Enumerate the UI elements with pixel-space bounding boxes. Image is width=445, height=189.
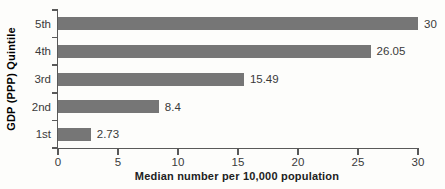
x-axis-tick (237, 148, 239, 155)
bar-value-label: 26.05 (377, 43, 406, 59)
category-label: 4th (1, 43, 51, 59)
y-axis-tick (52, 9, 59, 11)
x-axis-tick (357, 148, 359, 155)
category-label: 5th (1, 16, 51, 32)
bar-value-label: 15.49 (250, 71, 279, 87)
bar (58, 128, 91, 141)
y-axis-tick (52, 92, 59, 94)
x-tick-label: 25 (340, 156, 376, 168)
x-axis-tick (117, 148, 119, 155)
x-tick-label: 10 (160, 156, 196, 168)
x-tick-label: 30 (400, 156, 436, 168)
bar-chart: GDP (PPP) Quintile 305th26.054th15.493rd… (0, 0, 445, 189)
bar (58, 45, 371, 58)
x-axis-tick (417, 148, 419, 155)
category-label: 3rd (1, 71, 51, 87)
bar (58, 100, 159, 113)
bar-value-label: 2.73 (97, 126, 119, 142)
x-axis-tick (177, 148, 179, 155)
y-axis-tick (52, 120, 59, 122)
x-tick-label: 0 (40, 156, 76, 168)
x-axis-title: Median number per 10,000 population (57, 170, 417, 182)
x-tick-label: 15 (220, 156, 256, 168)
y-axis-tick (52, 37, 59, 39)
bar-value-label: 30 (424, 16, 437, 32)
bar-value-label: 8.4 (165, 99, 181, 115)
x-axis-tick (57, 148, 59, 155)
bar (58, 17, 418, 30)
x-axis-tick (297, 148, 299, 155)
bar (58, 73, 244, 86)
category-label: 2nd (1, 99, 51, 115)
y-axis-tick (52, 64, 59, 66)
x-tick-label: 5 (100, 156, 136, 168)
category-label: 1st (1, 126, 51, 142)
plot-area: 305th26.054th15.493rd8.42nd2.731st051015… (57, 10, 418, 149)
x-tick-label: 20 (280, 156, 316, 168)
